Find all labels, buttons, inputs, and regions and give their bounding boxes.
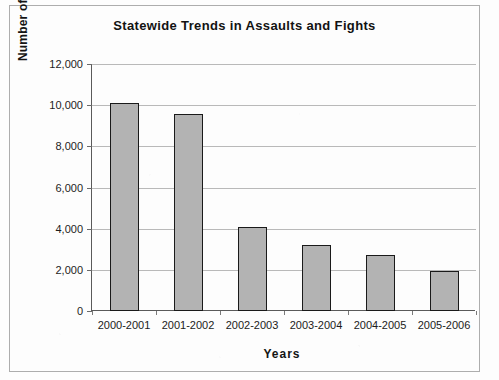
x-axis-tick-label: 2002-2003 [226,319,279,331]
bar [174,114,203,311]
bars-group [92,64,476,311]
x-axis-tick-label: 2003-2004 [290,319,343,331]
x-axis-tick-mark [284,311,285,315]
y-axis-tick-label: 8,000 [55,140,83,152]
x-axis-tick-label: 2000-2001 [98,319,151,331]
x-axis-tick-mark [412,311,413,315]
y-axis-tick-label: 6,000 [55,182,83,194]
y-axis-tick-label: 0 [77,305,83,317]
bar [366,255,395,311]
bar [430,271,459,311]
y-axis-title: Number of Assaults an Fights [16,0,34,98]
chart-title: Statewide Trends in Assaults and Fights [9,18,480,33]
x-axis-tick-mark [220,311,221,315]
bar [110,103,139,311]
y-axis-tick-label: 12,000 [49,58,83,70]
x-axis-tick-label: 2004-2005 [354,319,407,331]
y-axis-tick-label: 2,000 [55,264,83,276]
bar [238,227,267,311]
x-axis-tick-mark [92,311,93,315]
x-axis-tick-label: 2005-2006 [418,319,471,331]
y-axis-tick-label: 4,000 [55,223,83,235]
plot-area: 02,0004,0006,0008,00010,00012,000 2000-2… [91,64,475,311]
y-axis-tick-label: 10,000 [49,99,83,111]
x-axis-title: Years [88,347,476,361]
x-axis-tick-mark [476,311,477,315]
x-axis-tick-label: 2001-2002 [162,319,215,331]
bar [302,245,331,311]
x-axis-tick-mark [156,311,157,315]
x-axis-tick-mark [348,311,349,315]
